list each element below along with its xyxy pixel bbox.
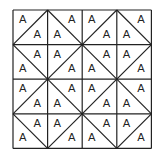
triangle-label: A (103, 48, 111, 61)
triangle-label: A (137, 131, 145, 144)
triangle-label: A (54, 48, 62, 61)
triangle-label: A (137, 62, 145, 75)
triangle-label: A (137, 82, 145, 95)
triangle-label: A (33, 97, 41, 110)
triangle-label: A (137, 13, 145, 26)
triangle-label: A (68, 13, 76, 26)
triangle-label: A (19, 13, 27, 26)
triangle-label: A (123, 48, 131, 61)
triangle-label: A (123, 117, 131, 130)
triangle-label: A (123, 97, 131, 110)
triangle-label: A (54, 117, 62, 130)
triangle-label: A (103, 117, 111, 130)
triangle-label: A (19, 131, 27, 144)
triangle-label: A (54, 28, 62, 41)
triangle-label: A (68, 82, 76, 95)
triangle-label: A (19, 62, 27, 75)
triangle-label: A (33, 48, 41, 61)
triangle-label: A (68, 62, 76, 75)
triangle-label: A (88, 131, 96, 144)
triangle-label: A (103, 28, 111, 41)
triangle-label: A (88, 82, 96, 95)
triangle-label: A (68, 131, 76, 144)
triangle-label: A (33, 28, 41, 41)
triangle-label: A (19, 82, 27, 95)
triangle-label: A (33, 117, 41, 130)
triangle-label: A (88, 13, 96, 26)
triangle-label: A (88, 62, 96, 75)
triangle-label: A (54, 97, 62, 110)
triangle-label: A (123, 28, 131, 41)
triangle-grid-diagram: AAAAAAAAAAAAAAAAAAAAAAAAAAAAAAAA (0, 0, 161, 159)
triangle-label: A (103, 97, 111, 110)
